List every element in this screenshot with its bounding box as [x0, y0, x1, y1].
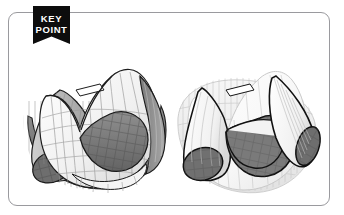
screenshot-root: Ruled surface with self-intersecting fol… — [0, 0, 344, 215]
badge-line-point: POINT — [33, 24, 70, 35]
badge-line-key: KEY — [33, 6, 70, 24]
figure-area: Ruled surface with self-intersecting fol… — [8, 12, 330, 206]
figure-left: Ruled surface with self-intersecting fol… — [20, 46, 174, 198]
figure-right: Same surface with cone tubes emphasized — [168, 46, 322, 198]
